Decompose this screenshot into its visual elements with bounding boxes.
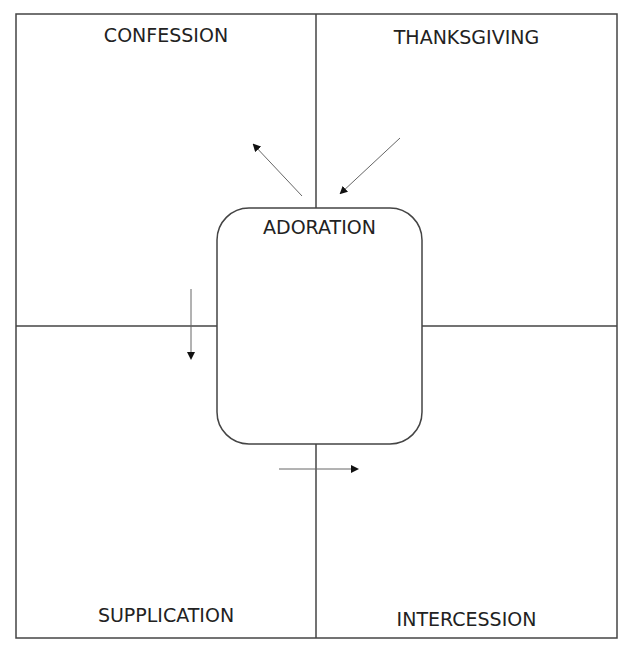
arrow-from-thanksgiving bbox=[341, 138, 400, 193]
label-adoration: ADORATION bbox=[217, 216, 422, 238]
label-intercession: INTERCESSION bbox=[316, 608, 617, 630]
label-confession: CONFESSION bbox=[16, 24, 316, 46]
center-box bbox=[217, 208, 422, 444]
acts-diagram bbox=[0, 0, 631, 649]
label-thanksgiving: THANKSGIVING bbox=[316, 26, 617, 48]
label-supplication: SUPPLICATION bbox=[16, 604, 316, 626]
arrow-to-confession bbox=[254, 145, 302, 196]
